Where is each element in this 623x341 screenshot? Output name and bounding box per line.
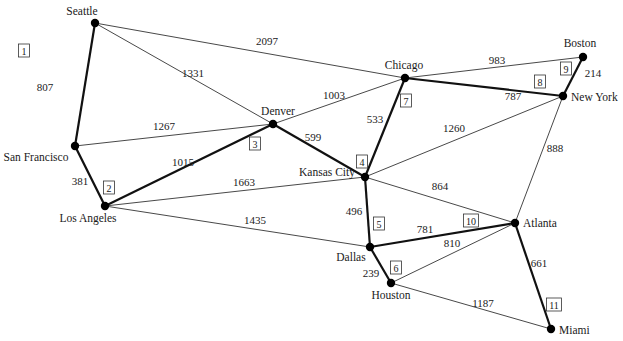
edge-weight-label: 496: [346, 205, 363, 217]
edge-order-box: 2: [104, 181, 115, 194]
edge-order-box: 10: [464, 214, 479, 227]
node-denver: [269, 120, 277, 128]
edge-weight-label: 888: [547, 142, 564, 154]
edge-weight-label: 781: [417, 223, 434, 235]
node-houston: [387, 279, 395, 287]
edge-denver-chicago: [273, 78, 405, 124]
edge-weight-label: 599: [305, 131, 322, 143]
edge-order-number: 5: [377, 219, 382, 230]
edge-order-number: 2: [107, 183, 112, 194]
edge-order-number: 11: [549, 300, 559, 311]
edge-weight-label: 1015: [172, 156, 195, 168]
edge-order-box: 3: [250, 137, 261, 150]
city-label-losangeles: Los Angeles: [59, 212, 117, 225]
city-label-houston: Houston: [372, 289, 411, 301]
edge-weight-label: 807: [37, 81, 54, 93]
edge-weight-label: 533: [367, 113, 384, 125]
edge-weight-label: 2097: [256, 35, 279, 47]
mst-graph-diagram: 8073811015599496239533787214781661209713…: [0, 0, 623, 341]
city-label-newyork: New York: [571, 91, 618, 103]
edge-order-box: 8: [535, 75, 546, 88]
edge-order-number: 3: [253, 139, 258, 150]
edge-order-number: 7: [404, 96, 409, 107]
edge-weight-label: 1331: [182, 67, 204, 79]
edge-losangeles-dallas: [105, 206, 370, 247]
edge-weight-label: 1435: [244, 214, 267, 226]
node-sanfrancisco: [71, 142, 79, 150]
node-dallas: [366, 243, 374, 251]
edge-order-box: 7: [401, 94, 412, 107]
edge-weight-label: 1187: [472, 297, 494, 309]
edge-weight-label: 1267: [153, 120, 176, 132]
edge-kansascity-dallas: [365, 177, 370, 247]
edge-houston-atlanta: [391, 223, 515, 283]
edge-order-box: 5: [374, 217, 385, 230]
edge-weight-label: 661: [531, 257, 548, 269]
city-labels-layer: SeattleSan FranciscoLos AngelesDenverChi…: [4, 5, 618, 336]
edge-weight-label: 864: [432, 180, 449, 192]
edge-order-box: 9: [561, 62, 572, 75]
node-miami: [547, 325, 555, 333]
city-label-seattle: Seattle: [66, 5, 97, 17]
node-boston: [579, 53, 587, 61]
edge-weight-label: 239: [363, 267, 380, 279]
edge-kansascity-chicago: [365, 78, 405, 177]
city-label-atlanta: Atlanta: [523, 217, 557, 229]
edge-order-number: 6: [394, 263, 399, 274]
edge-order-number: 10: [466, 216, 476, 227]
city-label-sanfrancisco: San Francisco: [4, 151, 69, 163]
edge-order-number: 1: [22, 46, 27, 57]
edge-weight-label: 1260: [443, 122, 466, 134]
edge-order-box: 11: [547, 298, 562, 311]
edge-weight-label: 1003: [323, 89, 346, 101]
edge-order-number: 9: [564, 64, 569, 75]
city-label-dallas: Dallas: [336, 251, 366, 263]
edge-weight-label: 214: [585, 67, 602, 79]
graph-canvas: 8073811015599496239533787214781661209713…: [0, 0, 623, 341]
city-label-chicago: Chicago: [385, 59, 424, 72]
edge-order-box: 1: [19, 44, 30, 57]
node-kansascity: [361, 173, 369, 181]
edge-weight-label: 983: [489, 54, 506, 66]
city-label-denver: Denver: [261, 105, 295, 117]
edge-order-number: 4: [360, 157, 365, 168]
edge-newyork-atlanta: [515, 96, 563, 223]
edge-weight-label: 381: [72, 175, 89, 187]
edge-houston-miami: [391, 283, 551, 329]
node-seattle: [91, 19, 99, 27]
edge-weight-label: 787: [505, 90, 522, 102]
node-chicago: [401, 74, 409, 82]
edge-weight-label: 810: [444, 237, 461, 249]
edge-order-box: 6: [391, 261, 402, 274]
edge-seattle-sanfrancisco: [75, 23, 95, 146]
node-atlanta: [511, 219, 519, 227]
edge-order-box: 4: [357, 155, 368, 168]
node-losangeles: [101, 202, 109, 210]
edge-order-boxes-layer: 1234567891011: [19, 44, 572, 311]
city-label-boston: Boston: [564, 37, 597, 49]
edge-seattle-chicago: [95, 23, 405, 78]
node-newyork: [559, 92, 567, 100]
edge-atlanta-miami: [515, 223, 551, 329]
city-label-miami: Miami: [559, 324, 590, 336]
city-label-kansascity: Kansas City: [299, 166, 355, 179]
edge-weight-label: 1663: [233, 176, 256, 188]
edge-kansascity-newyork: [365, 96, 563, 177]
edge-dallas-atlanta: [370, 223, 515, 247]
edge-order-number: 8: [538, 77, 543, 88]
